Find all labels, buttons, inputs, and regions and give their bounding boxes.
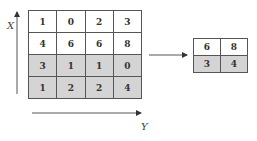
matrix-cell: 0 [113, 55, 141, 77]
matrix-cell: 0 [57, 11, 85, 33]
matrix-cell: 1 [85, 55, 113, 77]
input-matrix: 1 0 2 3 4 6 6 8 3 1 1 0 1 2 2 4 [28, 10, 142, 99]
x-axis-label: X [7, 20, 14, 31]
matrix-cell: 8 [221, 39, 248, 56]
matrix-cell: 6 [194, 39, 221, 56]
y-axis-label: Y [141, 121, 148, 132]
matrix-cell: 3 [113, 11, 141, 33]
matrix-cell: 3 [29, 55, 57, 77]
matrix-cell: 2 [85, 11, 113, 33]
matrix-cell: 8 [113, 33, 141, 55]
matrix-row: 1 0 2 3 [29, 11, 142, 33]
matrix-cell: 2 [85, 77, 113, 99]
matrix-cell: 1 [57, 55, 85, 77]
matrix-cell: 4 [113, 77, 141, 99]
matrix-row-shaded: 3 1 1 0 [29, 55, 142, 77]
matrix-cell: 4 [29, 33, 57, 55]
matrix-cell: 1 [29, 11, 57, 33]
matrix-row: 6 8 [194, 39, 248, 56]
matrix-row: 4 6 6 8 [29, 33, 142, 55]
matrix-cell: 1 [29, 77, 57, 99]
matrix-cell: 2 [57, 77, 85, 99]
matrix-row-shaded: 3 4 [194, 56, 248, 73]
matrix-row-shaded: 1 2 2 4 [29, 77, 142, 99]
matrix-cell: 4 [221, 56, 248, 73]
matrix-cell: 6 [57, 33, 85, 55]
output-matrix: 6 8 3 4 [193, 38, 248, 73]
matrix-cell: 3 [194, 56, 221, 73]
matrix-cell: 6 [85, 33, 113, 55]
